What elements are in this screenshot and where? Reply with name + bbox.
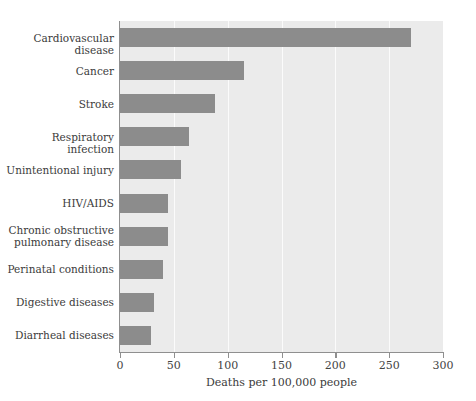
bar: [120, 326, 151, 345]
gridline: [389, 21, 390, 352]
y-axis-label-line: Cancer: [2, 65, 114, 77]
x-axis-tick-label: 150: [262, 359, 302, 372]
y-axis-category-label: Respiratory infection: [2, 131, 114, 155]
y-axis-label-line: pulmonary disease: [2, 236, 114, 248]
bar-chart-figure: 050100150200250300 Cardiovascular diseas…: [0, 0, 476, 401]
y-axis-category-label: Diarrheal diseases: [2, 329, 114, 341]
x-axis-tick: [389, 352, 390, 358]
y-axis-category-label: Cancer: [2, 65, 114, 77]
bar: [120, 94, 215, 113]
y-axis-category-label: Chronic obstructivepulmonary disease: [2, 224, 114, 248]
y-axis-category-label: Cardiovascular disease: [2, 32, 114, 56]
bar: [120, 194, 168, 213]
y-axis-category-label: Perinatal conditions: [2, 263, 114, 275]
y-axis-label-line: Chronic obstructive: [2, 224, 114, 236]
y-axis-label-line: Respiratory infection: [2, 131, 114, 155]
y-axis-label-line: Stroke: [2, 98, 114, 110]
y-axis-label-line: Cardiovascular disease: [2, 32, 114, 56]
y-axis-category-label: Unintentional injury: [2, 164, 114, 176]
y-axis-label-line: Diarrheal diseases: [2, 329, 114, 341]
y-axis-label-line: Unintentional injury: [2, 164, 114, 176]
x-axis-tick-label: 200: [315, 359, 355, 372]
y-axis-label-line: Perinatal conditions: [2, 263, 114, 275]
bar: [120, 61, 244, 80]
x-axis-tick: [228, 352, 229, 358]
y-axis-category-label: Stroke: [2, 98, 114, 110]
x-axis-tick-label: 250: [369, 359, 409, 372]
bar: [120, 227, 168, 246]
x-axis-tick: [282, 352, 283, 358]
bar: [120, 260, 163, 279]
bar: [120, 127, 189, 146]
x-axis-tick: [174, 352, 175, 358]
bar: [120, 28, 411, 47]
y-axis-label-line: HIV/AIDS: [2, 197, 114, 209]
x-axis-tick-label: 100: [208, 359, 248, 372]
x-axis-tick: [120, 352, 121, 358]
bar: [120, 160, 181, 179]
y-axis-category-labels: Cardiovascular diseaseCancerStrokeRespir…: [0, 0, 114, 401]
x-axis-tick: [335, 352, 336, 358]
y-axis-category-label: HIV/AIDS: [2, 197, 114, 209]
y-axis-label-line: Digestive diseases: [2, 296, 114, 308]
bar: [120, 293, 154, 312]
plot-area: [120, 21, 443, 352]
gridline: [282, 21, 283, 352]
y-axis-line: [119, 21, 120, 352]
x-axis-tick-label: 50: [154, 359, 194, 372]
x-axis-tick: [443, 352, 444, 358]
x-axis-title: Deaths per 100,000 people: [119, 376, 444, 389]
x-axis-tick-label: 300: [423, 359, 463, 372]
gridline: [335, 21, 336, 352]
y-axis-category-label: Digestive diseases: [2, 296, 114, 308]
